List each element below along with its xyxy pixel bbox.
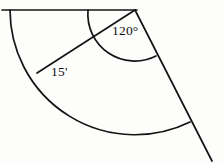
right-ray-segment xyxy=(135,10,212,161)
geometry-figure: 120° 15' xyxy=(0,0,224,164)
radius-label: 15' xyxy=(51,65,68,79)
central-angle-label: 120° xyxy=(112,24,138,38)
